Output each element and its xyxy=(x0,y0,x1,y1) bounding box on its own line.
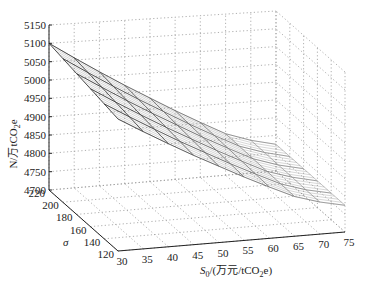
sigma-tick-label: 200 xyxy=(42,199,59,211)
surface-chart: 4700475048004850490049505000505051005150… xyxy=(0,0,369,285)
sigma-tick-label: 220 xyxy=(29,187,46,199)
z-tick-label: 4900 xyxy=(24,111,47,123)
z-tick-label: 4850 xyxy=(24,129,47,141)
sigma-tick-label: 180 xyxy=(56,211,73,223)
s0-tick-label: 45 xyxy=(192,249,204,261)
z-tick-label: 5150 xyxy=(24,19,47,31)
z-tick-label: 5000 xyxy=(24,74,47,86)
s0-tick-label: 75 xyxy=(344,236,356,248)
s0-tick-label: 70 xyxy=(318,238,330,250)
z-axis-label: N/万tCO2e xyxy=(7,119,22,168)
z-tick-label: 4800 xyxy=(24,147,47,159)
z-tick-label: 4750 xyxy=(24,166,47,178)
s0-tick-label: 35 xyxy=(142,253,154,265)
tick-labels: 4700475048004850490049505000505051005150… xyxy=(24,19,355,267)
s0-tick-label: 50 xyxy=(217,247,229,259)
z-tick-label: 4950 xyxy=(24,92,47,104)
s0-tick-label: 60 xyxy=(268,242,280,254)
z-tick-label: 5100 xyxy=(24,37,47,49)
z-tick-label: 5050 xyxy=(24,56,47,68)
s0-tick-label: 40 xyxy=(167,251,179,263)
surface-mesh xyxy=(49,43,345,205)
sigma-tick-label: 120 xyxy=(98,248,115,260)
s0-tick-label: 65 xyxy=(293,240,305,252)
x-axis-label: S0/(万元/tCO2e) xyxy=(200,264,273,279)
y-axis-label: σ xyxy=(63,236,69,248)
s0-tick-label: 55 xyxy=(243,244,255,256)
s0-tick-label: 30 xyxy=(117,255,129,267)
sigma-tick-label: 160 xyxy=(70,224,87,236)
sigma-tick-label: 140 xyxy=(84,236,101,248)
